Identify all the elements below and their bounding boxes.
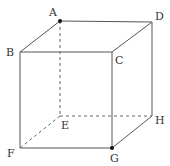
vertex-label-A: A <box>48 6 58 19</box>
cube-diagram: A B C D E F G H <box>0 0 170 166</box>
vertex-A-dot <box>58 19 62 23</box>
edge-AD <box>60 21 152 22</box>
vertex-label-D: D <box>155 10 164 23</box>
edge-CD <box>112 22 152 52</box>
vertex-G-dot <box>110 146 114 150</box>
edge-AB <box>20 21 60 52</box>
vertex-label-E: E <box>61 119 69 132</box>
vertex-label-F: F <box>7 147 15 160</box>
vertex-label-H: H <box>155 114 165 127</box>
vertex-label-C: C <box>115 54 123 67</box>
edge-GH <box>112 116 152 148</box>
edge-EF <box>20 116 60 148</box>
vertex-label-B: B <box>6 46 14 59</box>
vertex-label-G: G <box>110 152 119 165</box>
